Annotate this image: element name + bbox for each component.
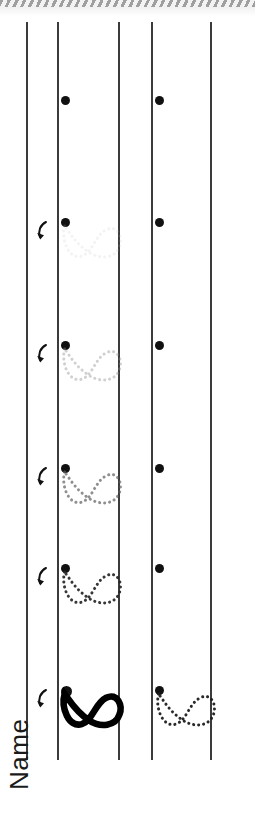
curved-stroke-direction-arrow-icon [36,466,50,488]
start-point-dot [155,564,164,573]
curved-stroke-direction-arrow-icon [36,566,50,588]
scanned-page-edge [0,0,255,7]
infinity-loop-glyph [59,343,125,389]
practice-row[interactable] [0,82,255,192]
practice-row[interactable] [0,450,255,560]
start-point-dot [155,464,164,473]
start-point-dot [155,341,164,350]
curved-stroke-direction-arrow-icon [36,220,50,242]
curved-stroke-direction-arrow-icon [36,343,50,365]
practice-row[interactable] [0,327,255,437]
practice-row[interactable] [0,204,255,314]
start-point-dot [155,96,164,105]
start-point-dot [155,218,164,227]
curved-stroke-direction-arrow-icon [36,688,50,710]
worksheet-page: Name [0,0,255,813]
scan-edge-fade [0,7,255,16]
practice-row[interactable] [0,672,255,782]
name-label: Name [4,719,35,790]
infinity-loop-glyph [59,466,125,512]
infinity-loop-glyph [59,566,125,612]
infinity-loop-glyph [153,688,219,734]
infinity-loop-glyph [59,688,125,734]
practice-row[interactable] [0,550,255,660]
infinity-loop-glyph [59,220,125,266]
start-point-dot [61,96,70,105]
